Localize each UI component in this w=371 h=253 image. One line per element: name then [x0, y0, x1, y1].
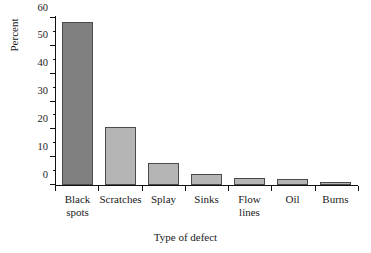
x-axis-category-label: Blackspots — [56, 193, 99, 229]
x-axis-category-label-line: Sinks — [185, 193, 228, 206]
bar-slot — [271, 18, 314, 185]
x-axis-category-label-line: Burns — [314, 193, 357, 206]
bar-slot — [56, 18, 99, 185]
x-axis-tick — [55, 186, 56, 191]
x-axis-tick — [98, 186, 99, 191]
x-axis-tick — [142, 186, 143, 191]
pareto-chart: Percent 0102030405060 BlackspotsScratche… — [0, 0, 371, 253]
bar-slot — [185, 18, 228, 185]
x-axis-category-label-line: Black — [56, 193, 99, 206]
x-axis-category-label-line: Splay — [142, 193, 185, 206]
x-axis-tick — [228, 186, 229, 191]
x-axis-category-label: Flowlines — [228, 193, 271, 229]
bar-slot — [314, 18, 357, 185]
x-axis-category-label: Burns — [314, 193, 357, 229]
x-axis-category-label-line: Flow — [228, 193, 271, 206]
bar — [320, 182, 352, 185]
x-axis-category-label: Scratches — [99, 193, 142, 229]
x-axis-category-label: Sinks — [185, 193, 228, 229]
x-axis-tick — [185, 186, 186, 191]
x-axis-tick — [358, 186, 359, 191]
bar — [234, 178, 266, 185]
bar-series — [56, 18, 357, 185]
bar — [148, 163, 180, 185]
bar — [191, 174, 223, 185]
y-axis-tick-label: 0 — [26, 169, 48, 180]
y-axis-tick-label: 40 — [26, 58, 48, 69]
y-axis-tick-label: 10 — [26, 141, 48, 152]
y-axis-title: Percent — [6, 0, 22, 78]
bar — [277, 179, 309, 185]
x-axis-category-label-line: Scratches — [99, 193, 142, 206]
x-axis-tick — [315, 186, 316, 191]
x-axis-tick — [271, 186, 272, 191]
bar-slot — [228, 18, 271, 185]
x-axis-ticks — [55, 186, 358, 191]
y-axis-tick-label: 20 — [26, 114, 48, 125]
x-axis-title: Type of defect — [0, 231, 371, 244]
x-axis-category-label-line: lines — [228, 206, 271, 219]
bar — [62, 22, 94, 185]
x-axis-category-label-line: Oil — [271, 193, 314, 206]
x-axis-category-label-line: spots — [56, 206, 99, 219]
bar — [105, 127, 137, 185]
y-axis-tick-label: 50 — [26, 30, 48, 41]
x-axis-tick-labels: BlackspotsScratchesSplaySinksFlowlinesOi… — [56, 193, 357, 229]
x-axis-category-label: Splay — [142, 193, 185, 229]
bar-slot — [142, 18, 185, 185]
x-axis-category-label: Oil — [271, 193, 314, 229]
y-axis-tick-label: 30 — [26, 86, 48, 97]
bar-slot — [99, 18, 142, 185]
y-axis-tick-label: 60 — [26, 2, 48, 13]
plot-area: 0102030405060 — [56, 18, 357, 185]
